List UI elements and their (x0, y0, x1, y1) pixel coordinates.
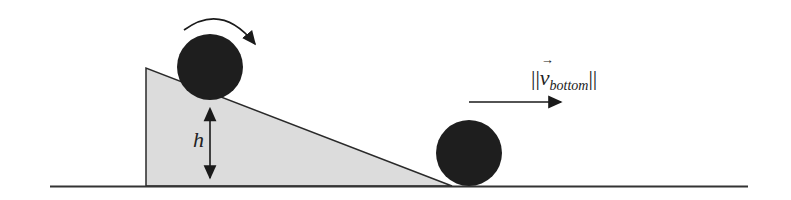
diagram-canvas: h ||vbottom|| (0, 0, 791, 200)
diagram-svg (0, 0, 791, 200)
height-label: h (193, 127, 204, 153)
velocity-label: ||vbottom|| (531, 65, 597, 94)
velocity-subscript: bottom (550, 78, 589, 93)
norm-bars-close: || (588, 65, 597, 90)
ball-top (177, 34, 243, 100)
velocity-symbol: v (540, 65, 550, 90)
norm-bars-open: || (531, 65, 540, 90)
ball-bottom (436, 120, 502, 186)
